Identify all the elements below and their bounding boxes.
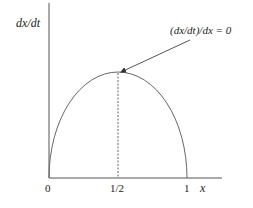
x-axis-label: x xyxy=(199,181,206,195)
y-axis-label: dx/dt xyxy=(16,16,41,30)
tick-label-half: 1/2 xyxy=(110,182,124,194)
annotation-arrow xyxy=(121,40,190,72)
annotation-text: (dx/dt)/dx = 0 xyxy=(170,24,232,37)
chart: dx/dt (dx/dt)/dx = 0 0 1/2 1 x xyxy=(0,0,253,208)
tick-label-1: 1 xyxy=(184,182,190,194)
tick-label-0: 0 xyxy=(45,182,51,194)
